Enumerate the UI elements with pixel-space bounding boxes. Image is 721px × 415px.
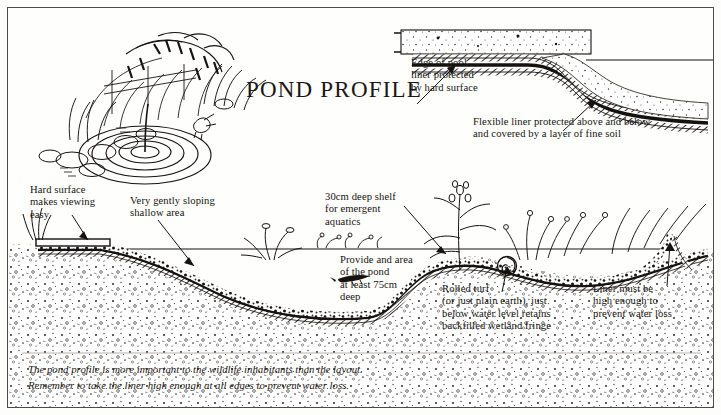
bankside-planting-right [504, 204, 706, 260]
vignette-shrubs [86, 58, 222, 128]
page-root: POND PROFILE Edge of pool liner protecte… [0, 0, 721, 415]
label-liner-height: Liner must be high enough to prevent wat… [593, 283, 672, 320]
vignette-plant-stem [145, 104, 148, 152]
label-shallow-area: Very gently sloping shallow area [130, 195, 215, 220]
arrow-shelf [436, 246, 446, 254]
label-hard-surface: Hard surface makes viewing easy [30, 184, 95, 221]
vignette-stones [39, 99, 233, 177]
label-deep-area: Provide and area of the pond at least 75… [340, 254, 413, 303]
arrow-shallow [184, 257, 194, 266]
water-plant-row-left [317, 233, 382, 248]
figure-caption: The pond profile is more important to th… [28, 362, 498, 393]
marginal-plant-center [241, 224, 302, 260]
label-flexible-liner: Flexible liner protected above and below… [473, 116, 650, 141]
vignette-reeds [69, 64, 266, 142]
label-edge-of-pool: Edge of pool liner protected by hard sur… [411, 57, 478, 94]
page-title: POND PROFILE [246, 77, 422, 103]
vignette-pond-scene [39, 33, 266, 184]
vignette-fence [104, 64, 196, 114]
left-hard-surface-slab [36, 239, 110, 246]
page-frame: POND PROFILE Edge of pool liner protecte… [7, 7, 714, 408]
label-shelf: 30cm deep shelf for emergent aquatics [325, 191, 396, 228]
inset-hard-surface-slab [401, 30, 591, 54]
emergent-plant-tall [424, 181, 496, 270]
label-rolled-turf: Rolled turf (or just plain earth), just … [442, 283, 551, 332]
vignette-bird [194, 114, 216, 140]
